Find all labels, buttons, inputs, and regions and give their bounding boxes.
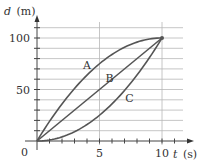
x-tick-label: 5 bbox=[96, 147, 103, 160]
y-axis-label: d (m) bbox=[4, 5, 36, 18]
endpoint-dot bbox=[160, 36, 164, 40]
y-tick-label: 100 bbox=[9, 32, 30, 45]
curves bbox=[37, 36, 164, 141]
origin-label: 0 bbox=[21, 146, 28, 159]
x-axis-arrow-icon bbox=[187, 139, 194, 144]
y-tick-label: 50 bbox=[16, 84, 30, 97]
x-axis-label: t (s) bbox=[173, 148, 197, 161]
curve-label-a: A bbox=[82, 59, 92, 72]
distance-time-chart: d (m) t (s) 0 51050100ABC bbox=[0, 0, 206, 168]
curve-label-c: C bbox=[125, 92, 133, 105]
curve-label-b: B bbox=[105, 72, 113, 85]
labels: d (m) t (s) 0 51050100ABC bbox=[4, 5, 197, 161]
x-tick-label: 10 bbox=[155, 147, 169, 160]
